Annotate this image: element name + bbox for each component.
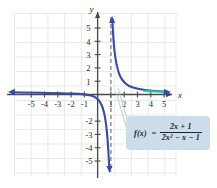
x-tick-label--5: -5: [28, 99, 35, 109]
formula-numerator: 2x + 1: [168, 123, 194, 132]
y-tick-label--2: -2: [85, 116, 92, 126]
curve-right-branch: [112, 19, 166, 92]
y-tick-label-1: 1: [86, 77, 90, 87]
formula-callout: f(x) = 2x + 1 2x² − x − 1: [126, 116, 210, 150]
y-axis-label: y: [89, 4, 94, 14]
y-tick-label-3: 3: [86, 50, 90, 60]
curve-bottom-arrow: [106, 166, 112, 173]
x-tick-label-3: 3: [135, 99, 139, 109]
y-tick-label-2: 2: [86, 63, 90, 73]
formula-equals-sign: =: [152, 129, 157, 138]
y-tick-label--3: -3: [85, 130, 92, 140]
y-tick-label--4: -4: [85, 143, 93, 153]
formula-function-name: f(x): [134, 129, 147, 138]
formula-expression: f(x) = 2x + 1 2x² − x − 1: [134, 123, 202, 142]
formula-fraction: 2x + 1 2x² − x − 1: [160, 123, 202, 142]
coordinate-plane: -5 -4 -3 -2 -1 1 2 3 4 5 5 4 3 2 1 -2 -3…: [0, 0, 217, 188]
y-tick-label-5: 5: [86, 23, 90, 33]
y-tick-label--5: -5: [85, 156, 92, 166]
x-tick-label--1: -1: [81, 99, 88, 109]
formula-denominator: 2x² − x − 1: [160, 132, 202, 142]
x-tick-label-4: 4: [149, 99, 154, 109]
y-axis-arrow: [95, 12, 100, 18]
graph-figure: -5 -4 -3 -2 -1 1 2 3 4 5 5 4 3 2 1 -2 -3…: [0, 0, 217, 188]
x-tick-label--4: -4: [41, 99, 49, 109]
x-tick-label--3: -3: [54, 99, 61, 109]
x-tick-label-5: 5: [162, 99, 166, 109]
x-axis-label: x: [177, 90, 182, 100]
x-tick-label--2: -2: [68, 99, 75, 109]
y-tick-label-4: 4: [86, 37, 91, 47]
